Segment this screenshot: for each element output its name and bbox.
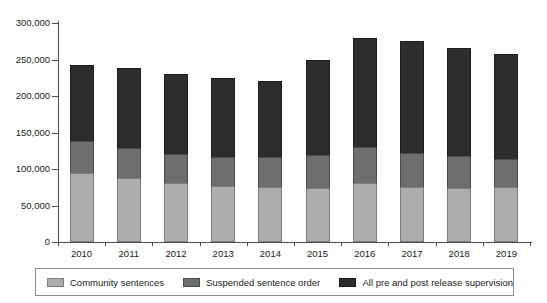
bar-2010: [70, 23, 94, 242]
bar-segment-2015-series-1: [306, 155, 330, 188]
x-axis-tick: [247, 242, 248, 246]
x-axis-label-2017: 2017: [392, 248, 432, 259]
legend-item-community-sentences: Community sentences: [47, 277, 164, 288]
bar-2018: [447, 23, 471, 242]
y-axis-tick-label: 150,000: [0, 128, 50, 137]
bar-segment-2010-series-1: [70, 141, 94, 172]
bar-segment-2010-series-0: [70, 173, 94, 242]
bar-2017: [400, 23, 424, 242]
y-axis-tick-label: 250,000: [0, 55, 50, 64]
legend-label-suspended-sentence-order: Suspended sentence order: [206, 277, 320, 288]
chart-container: 050,000100,000150,000200,000250,000300,0…: [0, 0, 547, 303]
y-axis-tick-label: 300,000: [0, 18, 50, 27]
x-axis-tick: [530, 242, 531, 246]
bar-segment-2013-series-0: [211, 186, 235, 242]
bar-2019: [494, 23, 518, 242]
x-axis-label-2010: 2010: [62, 248, 102, 259]
bar-segment-2012-series-2: [164, 74, 188, 154]
bar-segment-2017-series-2: [400, 41, 424, 153]
bar-segment-2010-series-2: [70, 65, 94, 142]
bar-segment-2011-series-0: [117, 178, 141, 242]
x-axis-tick: [105, 242, 106, 246]
bar-2015: [306, 23, 330, 242]
legend-label-community-sentences: Community sentences: [70, 277, 164, 288]
bar-segment-2018-series-2: [447, 48, 471, 156]
legend-item-suspended-sentence-order: Suspended sentence order: [183, 277, 320, 288]
bar-segment-2018-series-1: [447, 156, 471, 188]
y-axis-labels: 050,000100,000150,000200,000250,000300,0…: [0, 0, 50, 260]
x-axis-label-2015: 2015: [298, 248, 338, 259]
x-axis-tick: [200, 242, 201, 246]
x-axis-label-2013: 2013: [203, 248, 243, 259]
bar-segment-2011-series-2: [117, 68, 141, 148]
y-axis-tick: [52, 169, 58, 170]
bar-segment-2016-series-2: [353, 38, 377, 147]
bar-segment-2017-series-0: [400, 187, 424, 242]
x-axis-label-2016: 2016: [345, 248, 385, 259]
x-axis-tick: [58, 242, 59, 246]
x-axis-label-2014: 2014: [250, 248, 290, 259]
legend-swatch-icon-community-sentences: [47, 278, 64, 287]
bar-segment-2014-series-0: [258, 187, 282, 242]
bar-2016: [353, 23, 377, 242]
y-axis-tick: [52, 23, 58, 24]
bar-segment-2017-series-1: [400, 153, 424, 187]
plot-area: [58, 23, 530, 242]
bar-segment-2018-series-0: [447, 188, 471, 242]
bar-segment-2019-series-0: [494, 187, 518, 242]
bar-2013: [211, 23, 235, 242]
bar-2014: [258, 23, 282, 242]
bar-segment-2012-series-1: [164, 154, 188, 182]
y-axis-tick-label: 50,000: [0, 201, 50, 210]
bar-segment-2012-series-0: [164, 183, 188, 242]
legend-swatch-icon-all-pre-and-post-release-supervision: [339, 278, 356, 287]
y-axis-tick-label: 0: [0, 237, 50, 246]
x-axis-label-2019: 2019: [486, 248, 526, 259]
bar-segment-2013-series-2: [211, 78, 235, 158]
y-axis-tick: [52, 60, 58, 61]
bar-segment-2015-series-2: [306, 60, 330, 155]
y-axis-tick: [52, 206, 58, 207]
y-axis-tick: [52, 96, 58, 97]
bar-segment-2016-series-0: [353, 183, 377, 242]
y-axis-tick-label: 200,000: [0, 91, 50, 100]
y-axis-tick: [52, 133, 58, 134]
chart-legend: Community sentences Suspended sentence o…: [35, 268, 514, 296]
legend-swatch-icon-suspended-sentence-order: [183, 278, 200, 287]
x-axis-tick: [436, 242, 437, 246]
bar-segment-2011-series-1: [117, 148, 141, 178]
bar-segment-2014-series-2: [258, 81, 282, 158]
y-axis-tick-label: 100,000: [0, 164, 50, 173]
bar-segment-2015-series-0: [306, 188, 330, 242]
x-axis-line: [58, 242, 532, 243]
bar-segment-2014-series-1: [258, 157, 282, 187]
legend-item-all-pre-and-post-release-supervision: All pre and post release supervision: [339, 277, 513, 288]
bar-segment-2016-series-1: [353, 147, 377, 183]
legend-label-all-pre-and-post-release-supervision: All pre and post release supervision: [362, 277, 513, 288]
x-axis-tick: [152, 242, 153, 246]
x-axis-label-2011: 2011: [109, 248, 149, 259]
x-axis-tick: [341, 242, 342, 246]
x-axis-tick: [388, 242, 389, 246]
bar-segment-2013-series-1: [211, 157, 235, 185]
bar-2011: [117, 23, 141, 242]
bar-segment-2019-series-1: [494, 159, 518, 187]
bar-2012: [164, 23, 188, 242]
x-axis-tick: [294, 242, 295, 246]
x-axis-label-2012: 2012: [156, 248, 196, 259]
x-axis-tick: [483, 242, 484, 246]
x-axis-label-2018: 2018: [439, 248, 479, 259]
bar-segment-2019-series-2: [494, 54, 518, 159]
